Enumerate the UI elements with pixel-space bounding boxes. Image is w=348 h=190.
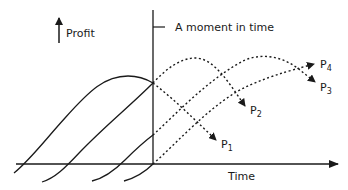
label-p4: P4 [320, 58, 332, 73]
x-axis-label: Time [227, 170, 255, 183]
curve-p2-projection [153, 58, 245, 106]
curve-p4-solid [124, 164, 153, 181]
profit-axis-indicator: Profit [59, 18, 95, 43]
label-p2: P2 [250, 104, 262, 119]
product-lifecycle-diagram: Profit Time A moment in time P1 P2 P3 P4 [0, 0, 348, 190]
projected-curves [153, 56, 315, 164]
historical-curves [14, 76, 153, 182]
curve-p3-solid [92, 135, 153, 181]
curve-p2-solid [42, 83, 153, 182]
curve-p1-projection [153, 83, 216, 140]
label-p1: P1 [221, 138, 233, 153]
moment-label: A moment in time [175, 21, 274, 34]
label-p3: P3 [320, 81, 332, 96]
curve-p1-solid [14, 76, 153, 173]
product-labels: P1 P2 P3 P4 [221, 58, 332, 153]
curve-p3-projection [153, 56, 315, 135]
moment-in-time-marker: A moment in time [153, 10, 274, 164]
y-axis-label: Profit [66, 27, 95, 40]
curve-p4-projection [153, 64, 314, 164]
